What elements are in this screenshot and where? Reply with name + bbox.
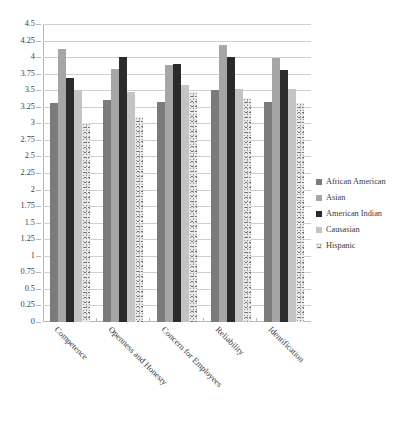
y-axis-tick-label: 2 xyxy=(31,185,35,193)
legend-swatch-icon xyxy=(316,179,322,185)
bar[interactable] xyxy=(189,92,197,322)
y-axis-tick-mark xyxy=(36,140,41,141)
y-axis-tick-label: 2.25 xyxy=(20,169,35,177)
y-axis-tick-mark xyxy=(36,57,41,58)
bar-group xyxy=(43,24,97,322)
y-axis-tick-label: 3 xyxy=(31,119,35,127)
bar[interactable] xyxy=(296,103,304,322)
bar[interactable] xyxy=(165,65,173,322)
legend-item[interactable]: African American xyxy=(316,174,416,190)
y-axis-tick-mark xyxy=(36,190,41,191)
y-axis-tick-label: 1.5 xyxy=(25,219,35,227)
bar[interactable] xyxy=(264,102,272,322)
x-axis-label: Openness and Honesty xyxy=(107,325,169,387)
bar[interactable] xyxy=(103,100,111,322)
bar[interactable] xyxy=(243,98,251,322)
bar[interactable] xyxy=(173,64,181,322)
y-axis: 00.250.50.7511.251.51.7522.252.52.7533.2… xyxy=(0,24,41,322)
y-axis-tick-mark xyxy=(36,223,41,224)
legend-swatch-icon xyxy=(316,211,322,217)
x-axis-label: Competence xyxy=(53,325,89,361)
y-axis-tick-label: 3.5 xyxy=(25,86,35,94)
bar-group xyxy=(97,24,151,322)
legend-label: African American xyxy=(326,178,386,186)
bar[interactable] xyxy=(235,89,243,322)
x-axis-label: Identification xyxy=(267,325,306,364)
legend-label: Asian xyxy=(326,194,345,202)
y-axis-tick-label: 1.25 xyxy=(20,235,35,243)
legend-swatch-icon xyxy=(316,243,322,249)
legend: African AmericanAsianAmerican IndianCaus… xyxy=(316,174,416,254)
legend-item[interactable]: Asian xyxy=(316,190,416,206)
y-axis-tick-label: 1.75 xyxy=(20,202,35,210)
bar[interactable] xyxy=(74,90,82,322)
y-axis-tick-mark xyxy=(36,24,41,25)
y-axis-tick-label: 4 xyxy=(31,53,35,61)
chart-figure: 00.250.50.7511.251.51.7522.252.52.7533.2… xyxy=(0,0,418,421)
bar[interactable] xyxy=(66,78,74,322)
legend-label: Hispanic xyxy=(326,242,356,250)
bar[interactable] xyxy=(111,69,119,322)
legend-swatch-icon xyxy=(316,227,322,233)
bar[interactable] xyxy=(119,57,127,322)
legend-item[interactable]: Causasian xyxy=(316,222,416,238)
y-axis-tick-label: 0.5 xyxy=(25,285,35,293)
plot-area xyxy=(43,24,311,322)
y-axis-tick-mark xyxy=(36,156,41,157)
y-axis-tick-mark xyxy=(36,74,41,75)
y-axis-tick-label: 3.25 xyxy=(20,103,35,111)
y-axis-tick-mark xyxy=(36,305,41,306)
bar[interactable] xyxy=(82,123,90,322)
y-axis-tick-mark xyxy=(36,173,41,174)
legend-swatch-icon xyxy=(316,195,322,201)
bar[interactable] xyxy=(280,70,288,322)
bar-group xyxy=(257,24,311,322)
bar-group xyxy=(204,24,258,322)
bar[interactable] xyxy=(227,57,235,322)
bar[interactable] xyxy=(181,85,189,322)
legend-label: American Indian xyxy=(326,210,382,218)
y-axis-tick-label: 3.75 xyxy=(20,70,35,78)
legend-item[interactable]: American Indian xyxy=(316,206,416,222)
y-axis-tick-mark xyxy=(36,289,41,290)
y-axis-tick-mark xyxy=(36,239,41,240)
y-axis-tick-mark xyxy=(36,206,41,207)
bar[interactable] xyxy=(50,103,58,322)
bar-group xyxy=(150,24,204,322)
x-axis-label: Reliability xyxy=(214,325,246,357)
x-axis-label: Concern for Employees xyxy=(160,325,224,389)
y-axis-tick-label: 0.25 xyxy=(20,301,35,309)
bar-groups xyxy=(43,24,311,322)
y-axis-tick-label: 1 xyxy=(31,252,35,260)
bar[interactable] xyxy=(127,92,135,322)
y-axis-tick-label: 2.75 xyxy=(20,136,35,144)
x-axis-labels: CompetenceOpenness and HonestyConcern fo… xyxy=(43,322,311,414)
y-axis-tick-mark xyxy=(36,41,41,42)
y-axis-tick-mark xyxy=(36,123,41,124)
y-axis-tick-label: 4.25 xyxy=(20,36,35,44)
y-axis-tick-label: 2.5 xyxy=(25,152,35,160)
y-axis-tick-label: 0.75 xyxy=(20,268,35,276)
y-axis-tick-mark xyxy=(36,272,41,273)
bar[interactable] xyxy=(288,89,296,322)
y-axis-tick-mark xyxy=(36,322,41,323)
y-axis-tick-label: 4.5 xyxy=(25,20,35,28)
bar[interactable] xyxy=(219,45,227,322)
bar[interactable] xyxy=(157,102,165,322)
legend-item[interactable]: Hispanic xyxy=(316,238,416,254)
legend-label: Causasian xyxy=(326,226,360,234)
y-axis-tick-mark xyxy=(36,107,41,108)
y-axis-tick-mark xyxy=(36,256,41,257)
bar[interactable] xyxy=(211,90,219,322)
y-axis-tick-label: 0 xyxy=(31,318,35,326)
bar[interactable] xyxy=(272,58,280,322)
bar[interactable] xyxy=(58,49,66,322)
bar[interactable] xyxy=(135,117,143,322)
y-axis-tick-mark xyxy=(36,90,41,91)
